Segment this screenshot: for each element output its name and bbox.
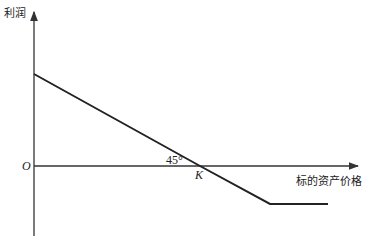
profit-line [34,74,328,204]
y-axis-label: 利润 [4,4,26,20]
x-axis-label: 标的资产价格 [296,172,362,188]
strike-label: K [195,168,203,183]
origin-label: O [22,159,31,174]
payoff-diagram [0,0,373,242]
angle-label: 45° [166,153,183,168]
